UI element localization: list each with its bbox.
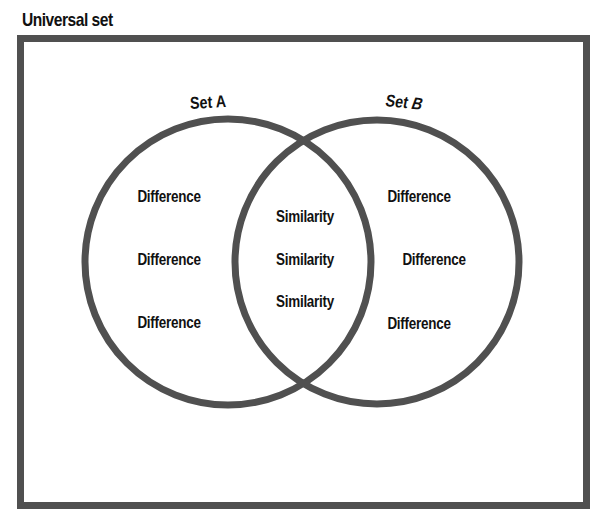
set-a-label: Set A xyxy=(190,92,227,114)
universal-set-label: Universal set xyxy=(22,9,113,31)
set-b-label: Set B xyxy=(384,91,424,114)
set-a-difference-3: Difference xyxy=(137,314,200,332)
set-a-difference-1: Difference xyxy=(137,188,200,206)
set-b-difference-2: Difference xyxy=(402,251,465,269)
set-b-difference-1: Difference xyxy=(387,188,450,206)
intersection-similarity-3: Similarity xyxy=(276,293,334,311)
intersection-similarity-2: Similarity xyxy=(276,251,334,269)
clipped-title-fragment xyxy=(250,0,585,6)
set-a-label-prefix: Set xyxy=(190,93,213,113)
set-b-difference-3: Difference xyxy=(387,315,450,333)
set-b-label-prefix: Set xyxy=(384,91,410,112)
universal-set-frame xyxy=(17,35,590,509)
intersection-similarity-1: Similarity xyxy=(276,208,334,226)
set-a-difference-2: Difference xyxy=(137,251,200,269)
set-a-label-letter: A xyxy=(215,92,226,112)
